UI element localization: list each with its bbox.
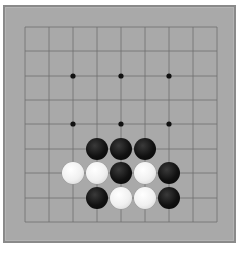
black-stone: [158, 162, 180, 184]
star-point: [70, 73, 75, 78]
black-stone: [86, 187, 108, 209]
star-point: [70, 121, 75, 126]
black-stone: [110, 162, 132, 184]
star-point: [166, 121, 171, 126]
white-stone: [134, 187, 156, 209]
black-stone: [110, 138, 132, 160]
white-stone: [86, 162, 108, 184]
star-point: [118, 73, 123, 78]
black-stone: [86, 138, 108, 160]
board-grid: [0, 0, 244, 255]
black-stone: [158, 187, 180, 209]
star-point: [166, 73, 171, 78]
white-stone: [62, 162, 84, 184]
black-stone: [134, 138, 156, 160]
white-stone: [110, 187, 132, 209]
star-point: [118, 121, 123, 126]
white-stone: [134, 162, 156, 184]
